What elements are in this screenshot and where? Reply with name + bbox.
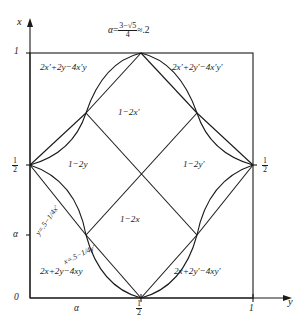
region-label-center-right: 1−2y′	[183, 159, 204, 169]
ytick-0: 0	[14, 292, 19, 302]
ytick-half: 12	[12, 157, 18, 174]
ytick-half-num: 1	[12, 157, 18, 165]
ytick-half-fraction: 12	[12, 157, 18, 174]
xtick-half-den: 2	[136, 308, 142, 317]
figure-canvas: α=3−√54≈.2 x y 1 12 α 0 12 α 12 1 2x′+2y…	[0, 0, 306, 318]
region-label-top-left: 2x′+2y−4x′y	[40, 62, 87, 72]
region-label-center-top: 1−2x′	[118, 107, 139, 117]
ytick-alpha: α	[13, 229, 18, 239]
xtick-1: 1	[249, 303, 254, 313]
region-label-top-right: 2x′+2y′−4x′y′	[172, 62, 223, 72]
xtick-alpha: α	[74, 303, 79, 313]
right-tick-half-den: 2	[262, 165, 268, 174]
alpha-fraction: 3−√54	[118, 22, 137, 39]
alpha-approx: ≈.2	[137, 25, 149, 35]
axis-label-y: y	[288, 296, 293, 307]
region-label-bottom-left: 2x+2y−4xy	[40, 266, 83, 276]
region-label-center-left: 1−2y	[68, 159, 87, 169]
xtick-half-fraction: 12	[136, 300, 142, 317]
ytick-1: 1	[14, 46, 19, 56]
xtick-half-num: 1	[136, 300, 142, 308]
alpha-formula: α=3−√54≈.2	[108, 22, 150, 39]
alpha-denominator: 4	[118, 30, 137, 39]
right-tick-half: 12	[262, 157, 268, 174]
region-label-bottom-right: 2x+2y′−4xy′	[174, 266, 221, 276]
ytick-half-den: 2	[12, 165, 18, 174]
axis-label-x: x	[17, 16, 22, 27]
alpha-numerator: 3−√5	[118, 22, 137, 30]
right-tick-half-fraction: 12	[262, 157, 268, 174]
xtick-half: 12	[136, 300, 142, 317]
region-label-center-bottom: 1−2x	[120, 214, 139, 224]
right-tick-half-num: 1	[262, 157, 268, 165]
axis-ticks	[26, 53, 257, 302]
